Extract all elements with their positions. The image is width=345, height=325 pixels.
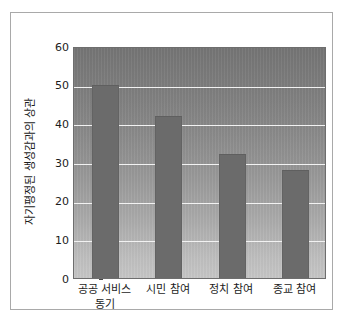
y-axis-label: 자기평정된 생성감과의 상관 [21,66,37,256]
y-tick-label: 20 [43,196,69,207]
y-tick-label: 10 [43,235,69,246]
x-tick-label: 공공 서비스동기 [73,282,136,312]
y-tick-label: 30 [43,158,69,169]
plot-area [73,47,326,279]
x-tick-label: 종교 참여 [263,282,326,297]
x-tick-label: 정치 참여 [200,282,263,297]
x-tick-label-line: 시민 참여 [136,282,199,297]
y-tick-label: 0 [43,274,69,285]
x-tick-label-line: 공공 서비스 [73,282,136,297]
bar [282,170,309,278]
bar [219,154,246,278]
x-tick-label: 시민 참여 [136,282,199,297]
bar [92,85,119,278]
x-axis-labels: 공공 서비스동기시민 참여정치 참여종교 참여 [73,282,326,318]
x-tick-label-line: 정치 참여 [200,282,263,297]
chart-figure: 0102030405060 자기평정된 생성감과의 상관 공공 서비스동기시민 … [0,0,345,325]
y-axis-ticks: 0102030405060 [41,47,69,279]
bar [155,116,182,278]
y-tick-label: 50 [43,80,69,91]
figure-frame: 0102030405060 자기평정된 생성감과의 상관 공공 서비스동기시민 … [10,12,333,310]
y-tick-mark [99,279,103,280]
x-tick-label-line: 동기 [73,297,136,312]
y-tick-label: 40 [43,119,69,130]
x-tick-label-line: 종교 참여 [263,282,326,297]
y-tick-label: 60 [43,42,69,53]
